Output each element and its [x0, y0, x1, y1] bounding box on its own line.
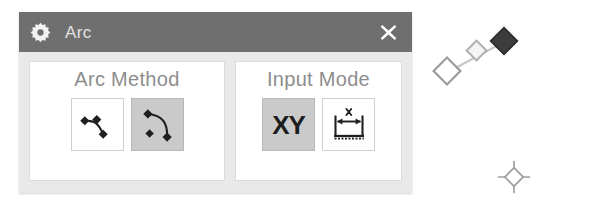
- group-label-input-mode: Input Mode: [267, 69, 370, 89]
- gear-icon: [30, 22, 51, 43]
- group-arc-method: Arc Method: [29, 61, 225, 181]
- group-label-arc-method: Arc Method: [74, 69, 179, 89]
- page-title: Arc: [65, 24, 92, 41]
- close-icon: [379, 23, 398, 42]
- close-button[interactable]: [376, 20, 400, 44]
- arc-dialog-panel: Arc Arc Method: [19, 12, 412, 193]
- snap-point-marker[interactable]: [497, 160, 531, 194]
- center-point-arc-icon: [136, 104, 178, 146]
- snap-point-icon: [497, 160, 531, 194]
- three-point-arc-icon: [76, 104, 118, 146]
- handle-mid[interactable]: [467, 41, 487, 61]
- input-mode-button-row: XY: [262, 98, 375, 151]
- dimension-icon: [328, 104, 370, 146]
- tool-button-three-point-arc[interactable]: [71, 98, 124, 151]
- handle-end[interactable]: [491, 28, 518, 55]
- handle-chain-icon: [428, 26, 528, 88]
- arc-method-button-row: [71, 98, 184, 151]
- xy-text-icon: XY: [272, 112, 305, 138]
- tool-button-xy-coordinates[interactable]: XY: [262, 98, 315, 151]
- dialog-body: Arc Method: [19, 52, 412, 193]
- arc-handle-chain[interactable]: [428, 26, 528, 88]
- dialog-title-bar[interactable]: Arc: [19, 12, 412, 52]
- tool-button-dimension-input[interactable]: [322, 98, 375, 151]
- tool-button-center-point-arc[interactable]: [131, 98, 184, 151]
- handle-start[interactable]: [434, 58, 461, 85]
- group-input-mode: Input Mode XY: [235, 61, 402, 181]
